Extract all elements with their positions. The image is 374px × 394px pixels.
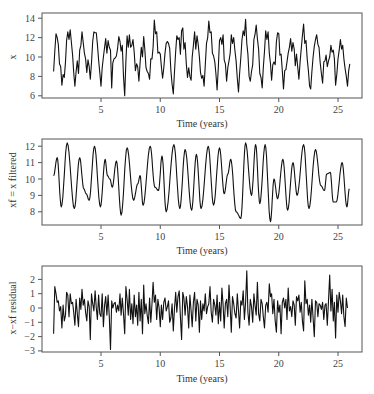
y-axis-label: x−xf residual <box>7 281 18 334</box>
x-axis: 510152025 <box>99 352 344 369</box>
y-tick-label: 11 <box>25 157 35 168</box>
x-tick-label: 20 <box>274 104 284 115</box>
panel-residual: −3−2−1012 510152025 x−xf residual Time (… <box>7 266 362 385</box>
y-axis: −3−2−1012 <box>24 274 42 357</box>
y-tick-label: 12 <box>25 141 35 152</box>
x-tick-label: 5 <box>99 104 104 115</box>
x-tick-label: 5 <box>99 358 104 369</box>
x-axis-label: Time (years) <box>176 373 227 385</box>
x-tick-label: 25 <box>333 104 343 115</box>
y-tick-label: 1 <box>30 288 35 299</box>
x-tick-label: 15 <box>215 231 225 242</box>
y-tick-label: 8 <box>30 71 35 82</box>
x-tick-label: 10 <box>155 358 165 369</box>
y-tick-label: −3 <box>24 345 35 356</box>
y-tick-label: 10 <box>25 52 35 63</box>
residual-series-line <box>54 271 348 350</box>
x-tick-label: 10 <box>155 104 165 115</box>
x-tick-label: 20 <box>274 358 284 369</box>
figure: 68101214 510152025 x Time (years) 891011… <box>0 0 374 394</box>
x-tick-label: 10 <box>155 231 165 242</box>
x-tick-label: 5 <box>99 231 104 242</box>
y-tick-label: −1 <box>24 317 35 328</box>
x-tick-label: 15 <box>215 104 225 115</box>
panel-xf: 89101112 510152025 xf = x filtered Time … <box>7 139 362 257</box>
y-tick-label: 0 <box>30 303 35 314</box>
y-tick-label: 12 <box>25 32 35 43</box>
x-tick-label: 25 <box>333 231 343 242</box>
y-tick-label: −2 <box>24 331 35 342</box>
y-tick-label: 14 <box>25 13 35 24</box>
y-axis: 68101214 <box>25 13 42 102</box>
x-axis-label: Time (years) <box>176 245 227 257</box>
y-tick-label: 9 <box>30 190 35 201</box>
y-axis-label: x <box>7 55 18 60</box>
x-tick-label: 20 <box>274 231 284 242</box>
y-tick-label: 10 <box>25 174 35 185</box>
plot-frame <box>42 139 362 225</box>
plot-frame <box>42 13 362 98</box>
y-tick-label: 6 <box>30 90 35 101</box>
filtered-series-line <box>54 143 350 222</box>
x-axis-label: Time (years) <box>176 118 227 130</box>
panel-x: 68101214 510152025 x Time (years) <box>7 13 362 130</box>
x-tick-label: 25 <box>333 358 343 369</box>
y-axis: 89101112 <box>25 141 42 218</box>
y-axis-label: xf = x filtered <box>7 152 18 207</box>
x-axis: 510152025 <box>99 225 344 242</box>
y-tick-label: 2 <box>30 274 35 285</box>
x-tick-label: 15 <box>215 358 225 369</box>
x-axis: 510152025 <box>99 98 344 115</box>
x-series-line <box>54 19 350 96</box>
y-tick-label: 8 <box>30 206 35 217</box>
